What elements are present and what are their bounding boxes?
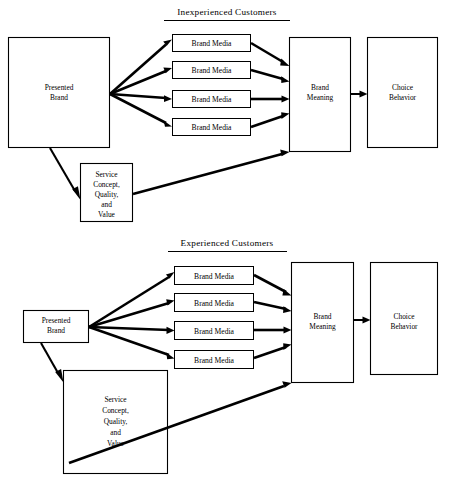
edge-media1-to-bm-p1 [251, 43, 283, 62]
node-service-concept-label-line5-p1: Value [98, 210, 116, 219]
node-service-concept-label-line2-p2: Concept, [102, 406, 129, 415]
node-presented-brand-label-line1-p2: Presented [42, 316, 71, 325]
node-brand-meaning-label-line1-p2: Brand [313, 312, 331, 321]
node-brand-media-1-label-p1: Brand Media [192, 39, 232, 48]
node-service-concept-label-line3-p1: Quality, [95, 190, 119, 199]
node-brand-meaning-label-line2-p2: Meaning [309, 322, 336, 331]
node-brand-media-2-label-p2: Brand Media [194, 299, 234, 308]
arrowhead-media3-to-bm-p1 [282, 95, 290, 102]
arrowhead-media2-to-bm-p1 [281, 76, 289, 83]
node-service-concept-label-line4-p2: and [110, 428, 121, 437]
edges-presented-brand-to-brand-media-p1 [110, 40, 172, 127]
edge-pb-to-media4-p2 [89, 327, 169, 355]
two-panel-brand-model-diagram: Inexperienced Customers Presented Brand … [0, 0, 451, 487]
node-brand-media-3-label-p2: Brand Media [194, 327, 234, 336]
panel-experienced-customers: Experienced Customers Presented Brand Br… [24, 238, 438, 474]
arrowhead-media1-to-bm-p1 [280, 59, 289, 66]
edge-pb-to-media1-p1 [110, 45, 166, 95]
arrowhead-media1-to-bm-p2 [282, 289, 291, 295]
edge-presented-brand-to-service-concept-p2 [41, 343, 64, 383]
node-choice-behavior-label-line1-p1: Choice [392, 83, 414, 92]
edge-brand-meaning-to-choice-behavior-p2 [354, 316, 371, 323]
edge-media2-to-bm-p1 [251, 70, 283, 79]
node-presented-brand-label-line1-p1: Presented [45, 83, 74, 92]
edge-pb-to-media2-p1 [110, 71, 166, 94]
node-brand-meaning-label-line2-p1: Meaning [307, 93, 334, 102]
edge-pb-to-sc-line-p2 [41, 343, 58, 373]
node-service-concept-label-line1-p2: Service [104, 395, 127, 404]
arrowhead-pb-to-media3-p1 [164, 95, 172, 102]
edge-pb-to-media1-p2 [89, 277, 169, 327]
panel-inexperienced-customers: Inexperienced Customers Presented Brand … [9, 7, 438, 222]
edges-brand-media-to-brand-meaning-p1 [251, 43, 290, 127]
arrowhead-media4-to-bm-p2 [283, 343, 291, 350]
edges-presented-brand-to-brand-media-p2 [89, 272, 175, 359]
edge-brand-meaning-to-choice-behavior-p1 [351, 90, 368, 97]
node-service-concept-label-line1-p1: Service [95, 170, 118, 179]
arrowhead-sc-to-bm-p1 [280, 150, 289, 157]
node-choice-behavior-label-line2-p2: Behavior [390, 322, 418, 331]
edge-service-concept-to-brand-meaning-p1 [133, 150, 290, 194]
edge-media2-to-bm-p2 [254, 302, 286, 309]
node-choice-behavior-label-line1-p2: Choice [394, 312, 416, 321]
edge-pb-to-media3-p2 [89, 327, 169, 330]
panel-title-experienced: Experienced Customers [181, 238, 274, 248]
node-service-concept-label-line2-p1: Concept, [93, 180, 120, 189]
arrowhead-media4-to-bm-p1 [281, 112, 289, 119]
edge-media4-to-bm-p2 [254, 347, 286, 358]
node-service-concept-label-line3-p2: Quality, [104, 417, 128, 426]
arrowhead-pb-to-media4-p1 [164, 121, 172, 127]
node-choice-behavior-label-line2-p1: Behavior [389, 93, 417, 102]
edge-media1-to-bm-p2 [254, 275, 286, 292]
node-service-concept-label-line4-p1: and [101, 200, 112, 209]
edge-media4-to-bm-p1 [251, 116, 283, 127]
node-brand-media-2-label-p1: Brand Media [192, 66, 232, 75]
edge-presented-brand-to-service-concept-p1 [50, 148, 81, 200]
arrowhead-media2-to-bm-p2 [283, 306, 291, 313]
edges-brand-media-to-brand-meaning-p2 [254, 275, 292, 358]
node-brand-media-4-label-p2: Brand Media [194, 356, 234, 365]
figure-canvas: Inexperienced Customers Presented Brand … [0, 0, 451, 487]
panel-title-inexperienced: Inexperienced Customers [177, 7, 277, 17]
node-presented-brand-label-line2-p1: Brand [50, 93, 68, 102]
edge-pb-to-media2-p2 [89, 303, 169, 327]
node-brand-media-3-label-p1: Brand Media [192, 95, 232, 104]
node-brand-media-1-label-p2: Brand Media [194, 272, 234, 281]
arrowhead-bm-to-cb-p2 [363, 316, 371, 323]
arrowhead-pb-to-media4-p2 [166, 353, 174, 360]
arrowhead-media3-to-bm-p2 [284, 326, 292, 333]
arrowhead-pb-to-media3-p2 [167, 327, 175, 334]
node-presented-brand-label-line2-p2: Brand [47, 326, 65, 335]
arrowhead-pb-to-media2-p2 [166, 299, 174, 305]
node-brand-media-4-label-p1: Brand Media [192, 123, 232, 132]
edge-sc-to-bm-line-p1 [133, 154, 282, 194]
arrowhead-bm-to-cb-p1 [360, 90, 368, 97]
node-brand-meaning-label-line1-p1: Brand [311, 83, 329, 92]
edge-pb-to-sc-line-p1 [50, 148, 75, 191]
